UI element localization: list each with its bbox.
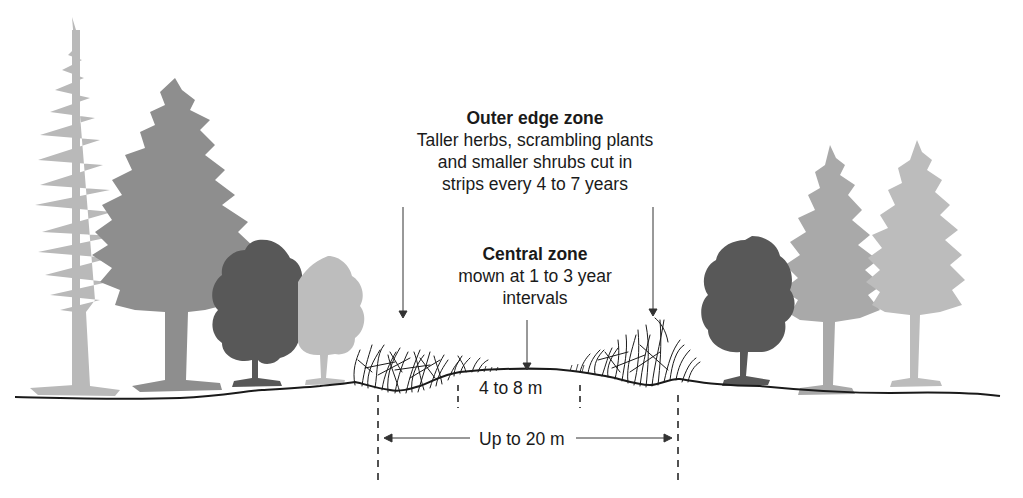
conifer-light-right-1-icon [782, 145, 882, 395]
right-scrub-icon [580, 318, 700, 387]
outer-zone-label: Outer edge zone Taller herbs, scrambling… [370, 108, 700, 195]
central-zone-label: Central zone mown at 1 to 3 year interva… [420, 244, 650, 309]
right-tree-group [701, 140, 965, 395]
outer-width-label: Up to 20 m [476, 429, 568, 449]
central-zone-line-1: mown at 1 to 3 year [420, 265, 650, 287]
broadleaf-dark-icon [212, 240, 306, 387]
left-tree-group [30, 17, 364, 396]
outer-zone-line-1: Taller herbs, scrambling plants [370, 129, 700, 151]
broadleaf-dark-right-icon [701, 236, 794, 386]
outer-zone-title: Outer edge zone [370, 108, 700, 129]
outer-zone-line-2: and smaller shrubs cut in [370, 151, 700, 173]
outer-zone-left-arrow [399, 207, 407, 318]
outer-zone-right-arrow [649, 207, 657, 316]
inner-width-label: 4 to 8 m [476, 378, 545, 398]
outer-zone-line-3: strips every 4 to 7 years [370, 173, 700, 195]
central-zone-arrow [523, 320, 531, 370]
central-zone-title: Central zone [420, 244, 650, 265]
central-zone-line-2: intervals [420, 287, 650, 309]
conifer-light-right-2-icon [866, 140, 965, 387]
